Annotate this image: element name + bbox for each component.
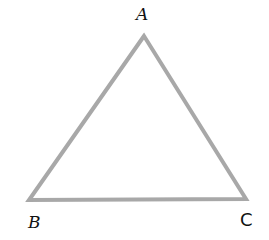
triangle-abc — [29, 36, 246, 200]
vertex-label-c: C — [240, 211, 253, 229]
triangle-diagram — [0, 0, 269, 240]
vertex-label-a: A — [136, 6, 148, 23]
vertex-label-b: B — [28, 214, 41, 231]
